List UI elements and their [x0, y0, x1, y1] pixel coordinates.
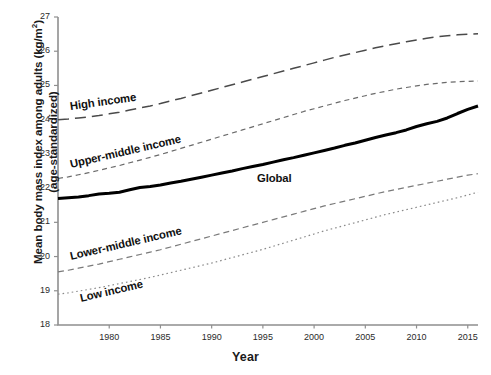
x-tick-label: 1990: [192, 332, 232, 342]
x-tick-label: 2010: [397, 332, 437, 342]
y-tick-label: 25: [26, 79, 50, 89]
plot-area: [0, 0, 491, 375]
x-tick-label: 1985: [140, 332, 180, 342]
y-tick-label: 23: [26, 148, 50, 158]
bmi-line-chart: Mean body mass index among adults (kg/m2…: [0, 0, 491, 375]
axis-lines: [58, 17, 478, 325]
y-tick-label: 24: [26, 114, 50, 124]
x-tick-label: 2005: [345, 332, 385, 342]
y-tick-label: 19: [26, 285, 50, 295]
series-line-high-income: [58, 34, 478, 120]
y-tick-label: 21: [26, 216, 50, 226]
y-tick-label: 20: [26, 251, 50, 261]
series-label-global: Global: [257, 172, 292, 184]
series-line-lower-middle-income: [58, 174, 478, 272]
x-tick-label: 1980: [89, 332, 129, 342]
x-axis-title: Year: [0, 350, 491, 364]
y-tick-label: 22: [26, 182, 50, 192]
x-tick-label: 2000: [294, 332, 334, 342]
x-tick-label: 1995: [243, 332, 283, 342]
x-tick-label: 2015: [448, 332, 488, 342]
y-tick-label: 27: [26, 11, 50, 21]
y-tick-label: 26: [26, 45, 50, 55]
y-tick-label: 18: [26, 319, 50, 329]
